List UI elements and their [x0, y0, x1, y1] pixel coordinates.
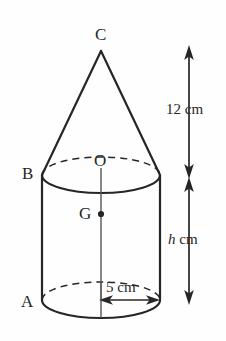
dimension-label-cylinder-height: h cm: [168, 232, 198, 247]
centroid-dot: [98, 211, 104, 217]
cone-right-slant: [101, 51, 160, 175]
vertex-label-B: B: [22, 165, 33, 182]
dimension-label-radius: 5 cm: [106, 280, 136, 295]
cone-left-slant: [42, 51, 101, 175]
vertex-label-O: O: [94, 152, 106, 169]
cylinder-height-symbol: h: [168, 231, 176, 247]
vertex-label-G: G: [79, 205, 91, 222]
vertex-label-A: A: [21, 293, 33, 310]
vertex-label-C: C: [95, 26, 106, 43]
dimension-label-cone-height: 12 cm: [166, 102, 203, 117]
cylinder-height-unit: cm: [179, 231, 197, 247]
geometry-figure: C B O G A 12 cm h cm 5 cm: [0, 0, 226, 341]
